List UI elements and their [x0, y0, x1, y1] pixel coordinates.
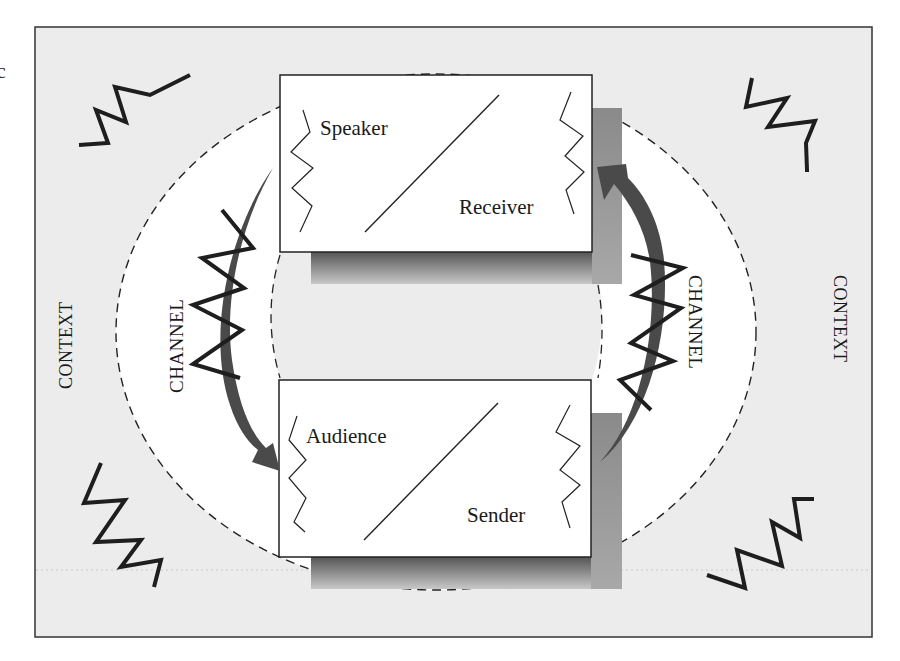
top-box-shadow-side — [592, 108, 622, 284]
communication-diagram: Speaker Receiver Audience Sender CHANNEL… — [0, 0, 900, 661]
right-context-label: CONTEXT — [830, 275, 850, 363]
bottom-box-shadow-bottom — [311, 557, 622, 589]
bottom-box — [279, 380, 591, 557]
left-channel-label: CHANNEL — [166, 299, 187, 393]
audience-label: Audience — [306, 424, 386, 448]
speaker-label: Speaker — [320, 116, 388, 140]
top-box-shadow-bottom — [311, 252, 622, 284]
receiver-label: Receiver — [459, 195, 534, 219]
left-context-label: CONTEXT — [56, 302, 76, 390]
right-channel-label: CHANNEL — [685, 275, 706, 369]
top-box — [280, 75, 592, 252]
sender-label: Sender — [467, 503, 525, 527]
